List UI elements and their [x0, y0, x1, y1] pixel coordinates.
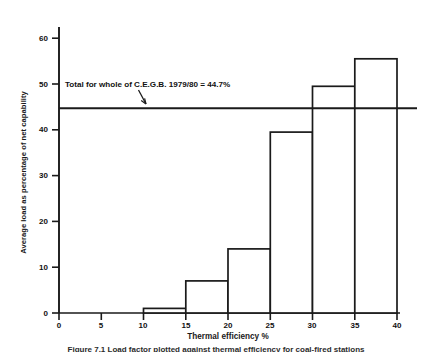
bar-30-35 — [313, 86, 355, 313]
reference-line-annotation: Total for whole of C.E.G.B. 1979/80 = 44… — [65, 80, 230, 89]
chart-canvas — [0, 0, 432, 352]
histogram-figure: 0 10 20 30 40 50 60 0 5 10 15 20 25 30 3… — [0, 0, 432, 352]
bar-25-30 — [270, 132, 312, 313]
y-tick-label-0: 0 — [26, 309, 48, 318]
figure-caption: Figure 7.1 Load factor plotted against t… — [0, 345, 432, 352]
x-tick-label-15: 15 — [176, 321, 196, 330]
x-tick-label-10: 10 — [133, 321, 153, 330]
bar-15-20 — [186, 281, 228, 313]
x-tick-label-5: 5 — [91, 321, 111, 330]
y-tick-label-50: 50 — [26, 80, 48, 89]
y-tick-label-40: 40 — [26, 125, 48, 134]
bar-35-40 — [355, 59, 397, 313]
histogram-bars — [144, 59, 398, 313]
x-tick-label-20: 20 — [218, 321, 238, 330]
y-tick-label-60: 60 — [26, 34, 48, 43]
y-tick-label-30: 30 — [26, 171, 48, 180]
x-tick-label-0: 0 — [49, 321, 69, 330]
x-axis-title: Thermal efficiency % — [59, 332, 397, 341]
bar-20-25 — [228, 249, 270, 313]
y-tick-label-10: 10 — [26, 263, 48, 272]
annotation-leader-arrow — [139, 90, 147, 104]
x-tick-label-35: 35 — [345, 321, 365, 330]
bar-10-15 — [144, 308, 186, 313]
x-tick-label-30: 30 — [302, 321, 322, 330]
x-axis-ticks — [59, 313, 397, 320]
x-tick-label-40: 40 — [387, 321, 407, 330]
y-axis-ticks — [52, 38, 59, 313]
x-tick-label-25: 25 — [260, 321, 280, 330]
y-tick-label-20: 20 — [26, 217, 48, 226]
y-axis-title: Average load as percentage of net capabi… — [19, 58, 28, 288]
